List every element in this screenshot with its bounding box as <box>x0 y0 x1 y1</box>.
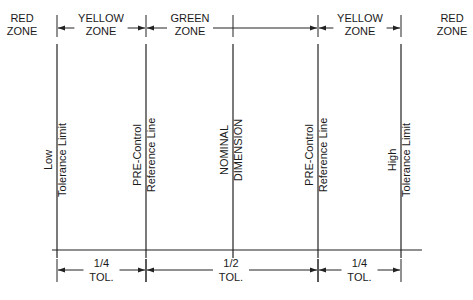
zone-label-line1: RED <box>440 12 463 24</box>
pre-control-diagram: REDZONEYELLOWZONEGREENZONEYELLOWZONEREDZ… <box>0 0 473 300</box>
zone-label-line2: ZONE <box>7 25 38 37</box>
dimension-fraction: 1/4 <box>352 257 367 269</box>
vertical-label-line2: Reference Line <box>317 118 329 193</box>
vertical-label-line2: Tolerance Limit <box>56 123 68 197</box>
dimension-fraction: 1/4 <box>94 257 109 269</box>
vertical-line-label-5: HighTolerance Limit <box>386 123 412 197</box>
zone-label-line2: ZONE <box>175 25 206 37</box>
vertical-label-line1: Low <box>42 150 54 170</box>
vertical-label-line2: Reference Line <box>145 118 157 193</box>
tolerance-dimension-1: 1/4TOL. <box>57 257 146 283</box>
vertical-label-line2: Tolerance Limit <box>400 123 412 197</box>
zone-label-red: REDZONE <box>7 12 38 37</box>
vertical-label-line1: NOMINAL <box>218 125 230 175</box>
zone-label-yellow: YELLOWZONE <box>58 12 145 37</box>
zone-label-red: REDZONE <box>437 12 468 37</box>
vertical-line-label-2: PRE-ControlReference Line <box>131 118 157 193</box>
dimension-unit: TOL. <box>89 271 113 283</box>
tolerance-dimension-3: 1/4TOL. <box>318 257 401 283</box>
zone-label-line1: YELLOW <box>78 12 124 24</box>
zone-label-line1: RED <box>10 12 33 24</box>
vertical-label-line2: DIMENSION <box>232 119 244 181</box>
vertical-label-line1: High <box>386 149 398 172</box>
zone-label-yellow: YELLOWZONE <box>319 12 400 37</box>
zone-label-line1: YELLOW <box>337 12 383 24</box>
zone-label-line2: ZONE <box>345 25 376 37</box>
vertical-line-label-1: LowTolerance Limit <box>42 123 68 197</box>
zone-label-line2: ZONE <box>86 25 117 37</box>
zone-label-line1: GREEN <box>170 12 209 24</box>
vertical-line-label-4: PRE-ControlReference Line <box>303 118 329 193</box>
vertical-label-line1: PRE-Control <box>131 124 143 186</box>
vertical-label-line1: PRE-Control <box>303 124 315 186</box>
tolerance-dimension-2: 1/2TOL. <box>146 257 318 283</box>
dimension-fraction: 1/2 <box>223 257 238 269</box>
zone-label-green: GREENZONE <box>147 12 317 37</box>
dimension-unit: TOL. <box>347 271 371 283</box>
zone-label-line2: ZONE <box>437 25 468 37</box>
vertical-line-label-3: NOMINALDIMENSION <box>218 119 244 181</box>
dimension-unit: TOL. <box>219 271 243 283</box>
